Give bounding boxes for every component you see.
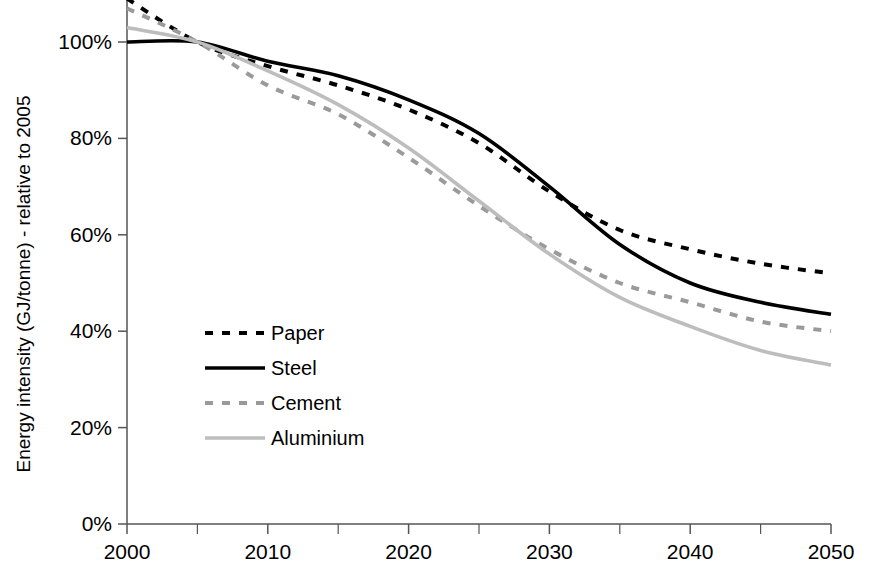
axis-group: 0%20%40%60%80%100%2000201020202030204020… (58, 0, 854, 563)
x-axis-tick-label: 2010 (244, 540, 291, 563)
legend-label-cement: Cement (271, 392, 341, 414)
x-axis-tick-label: 2030 (526, 540, 573, 563)
legend-label-aluminium: Aluminium (271, 427, 364, 449)
legend-group: PaperSteelCementAluminium (205, 322, 364, 449)
y-axis-tick-label: 60% (70, 223, 112, 246)
y-axis-title: Energy intensity (GJ/tonne) - relative t… (13, 95, 34, 472)
x-axis-tick-label: 2000 (104, 540, 151, 563)
y-axis-tick-label: 100% (58, 30, 112, 53)
x-axis-tick-label: 2050 (808, 540, 855, 563)
y-axis-tick-label: 40% (70, 319, 112, 342)
chart-page: 0%20%40%60%80%100%2000201020202030204020… (0, 0, 884, 584)
series-line-steel (127, 41, 831, 315)
series-group (127, 0, 831, 365)
y-axis-tick-label: 80% (70, 126, 112, 149)
y-axis-tick-label: 0% (82, 512, 112, 535)
energy-intensity-line-chart: 0%20%40%60%80%100%2000201020202030204020… (0, 0, 884, 584)
legend-label-paper: Paper (271, 322, 325, 344)
legend-label-steel: Steel (271, 357, 317, 379)
x-axis-tick-label: 2020 (385, 540, 432, 563)
x-axis-tick-label: 2040 (667, 540, 714, 563)
y-axis-tick-label: 20% (70, 416, 112, 439)
series-line-paper (127, 0, 831, 273)
series-line-aluminium (127, 28, 831, 365)
